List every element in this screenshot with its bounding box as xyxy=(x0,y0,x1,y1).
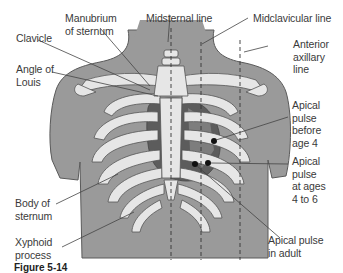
sternum-body xyxy=(160,98,182,178)
label-body-of-sternum: Body of sternum xyxy=(15,197,52,222)
label-angle-of-louis: Angle of Louis xyxy=(16,63,54,88)
figure-caption: Figure 5-14 xyxy=(14,262,67,273)
label-midclavicular-line: Midclavicular line xyxy=(253,12,331,25)
label-xyphoid-process: Xyphoid process xyxy=(15,236,52,261)
apical-pulse-4-to-6-dot-b xyxy=(205,160,211,166)
label-clavicle: Clavicle xyxy=(16,32,52,45)
label-midsternal-line: Midsternal line xyxy=(146,12,212,25)
apical-pulse-before-4-dot xyxy=(211,138,217,144)
label-apical-pulse-before-4: Apical pulse before age 4 xyxy=(292,99,321,149)
label-apical-pulse-adult: Apical pulse in adult xyxy=(268,234,323,259)
label-anterior-axillary-line: Anterior axillary line xyxy=(293,38,329,76)
label-manubrium: Manubrium of sternum xyxy=(65,12,117,37)
label-apical-pulse-4-to-6: Apical pulse at ages 4 to 6 xyxy=(292,155,326,205)
